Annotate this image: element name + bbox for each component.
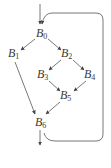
edge-b3-b5 <box>49 81 60 91</box>
node-b2: B2 <box>61 47 72 63</box>
node-b1: B1 <box>8 47 19 63</box>
node-b2-index: 2 <box>68 52 72 61</box>
edge-b2-b4 <box>73 60 84 70</box>
edge-b0-b1 <box>21 39 35 50</box>
node-b4-index: 4 <box>91 73 95 82</box>
node-b4: B4 <box>84 68 95 84</box>
node-b0-index: 0 <box>43 32 47 41</box>
node-b5-index: 5 <box>67 94 71 103</box>
node-b6: B6 <box>35 116 46 132</box>
edge-b2-b3 <box>49 60 61 70</box>
node-b0: B0 <box>36 27 47 43</box>
edge-b1-b6 <box>15 62 35 114</box>
node-b6-index: 6 <box>42 121 46 130</box>
cfg-diagram <box>0 0 111 168</box>
edge-b5-b6 <box>46 102 60 114</box>
edge-b0-b2 <box>48 39 61 50</box>
node-b3-index: 3 <box>44 73 48 82</box>
node-b3: B3 <box>37 68 48 84</box>
node-b1-index: 1 <box>15 52 19 61</box>
node-b5: B5 <box>60 89 71 105</box>
